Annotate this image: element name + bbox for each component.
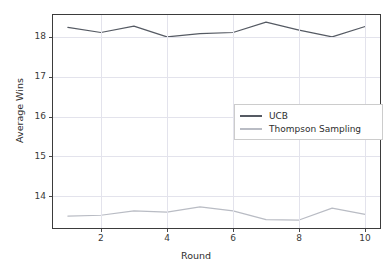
y-axis-title: Average Wins bbox=[14, 56, 25, 166]
legend-swatch-ucb bbox=[240, 115, 262, 117]
x-tick-mark bbox=[299, 229, 300, 232]
gridline-horizontal bbox=[53, 196, 380, 197]
legend: UCB Thompson Sampling bbox=[234, 104, 383, 140]
y-tick-label: 18 bbox=[0, 32, 46, 41]
x-tick-mark bbox=[365, 229, 366, 232]
x-tick-label: 6 bbox=[218, 234, 248, 243]
gridline-horizontal bbox=[53, 77, 380, 78]
series-line-thompson-sampling bbox=[68, 207, 365, 220]
x-tick-label: 10 bbox=[350, 234, 380, 243]
gridline-horizontal bbox=[53, 156, 380, 157]
line-chart-figure: 1415161718 246810 Average Wins Round UCB… bbox=[0, 0, 392, 270]
x-tick-label: 4 bbox=[152, 234, 182, 243]
legend-label-ucb: UCB bbox=[269, 111, 288, 121]
gridline-vertical bbox=[101, 15, 102, 228]
legend-item-ucb[interactable]: UCB bbox=[240, 109, 377, 122]
x-tick-mark bbox=[233, 229, 234, 232]
x-tick-mark bbox=[101, 229, 102, 232]
gridline-horizontal bbox=[53, 37, 380, 38]
x-tick-label: 8 bbox=[284, 234, 314, 243]
x-axis-title: Round bbox=[0, 250, 392, 261]
x-tick-mark bbox=[167, 229, 168, 232]
y-tick-label: 14 bbox=[0, 192, 46, 201]
legend-item-thompson-sampling[interactable]: Thompson Sampling bbox=[240, 122, 377, 135]
series-line-ucb bbox=[68, 22, 365, 37]
legend-label-thompson-sampling: Thompson Sampling bbox=[269, 124, 361, 134]
x-tick-label: 2 bbox=[86, 234, 116, 243]
legend-swatch-thompson-sampling bbox=[240, 128, 262, 130]
gridline-vertical bbox=[167, 15, 168, 228]
